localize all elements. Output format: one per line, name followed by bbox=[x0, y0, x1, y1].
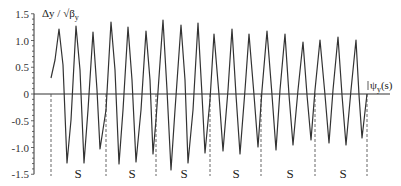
s-label: S bbox=[128, 166, 135, 181]
x-axis-title: ψy(s) bbox=[370, 79, 393, 94]
s-label: S bbox=[286, 166, 293, 181]
y-tick-label: -1.5 bbox=[12, 168, 30, 180]
y-axis-title: Δy / √βy bbox=[42, 7, 79, 22]
y-tick-label: -0.5 bbox=[12, 115, 30, 127]
y-tick-label: 0 bbox=[24, 88, 30, 100]
chart: 1.51.00.50-0.5-1.0-1.5 SSSSSS Δy / √βy ψ… bbox=[0, 0, 401, 186]
s-label: S bbox=[74, 166, 81, 181]
y-tick-label: 0.5 bbox=[15, 61, 29, 73]
y-axis: 1.51.00.50-0.5-1.0-1.5 bbox=[12, 8, 34, 181]
s-label: S bbox=[232, 166, 239, 181]
y-tick-label: 1.0 bbox=[15, 35, 29, 47]
s-label: S bbox=[180, 166, 187, 181]
s-annotations: SSSSSS bbox=[74, 166, 346, 181]
y-tick-label: -1.0 bbox=[12, 142, 30, 154]
y-tick-label: 1.5 bbox=[15, 8, 29, 20]
data-series-line bbox=[51, 20, 367, 170]
s-label: S bbox=[339, 166, 346, 181]
